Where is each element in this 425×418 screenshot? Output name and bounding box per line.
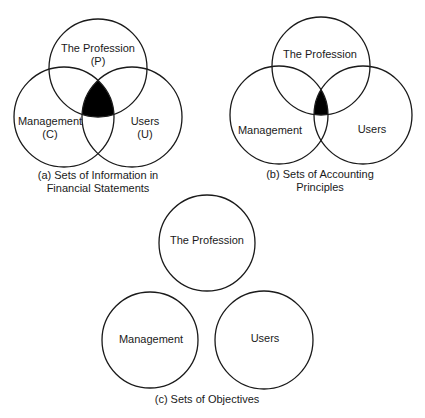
caption-a-line2: Financial Statements bbox=[47, 182, 150, 194]
label-users-b: Users bbox=[358, 123, 387, 135]
diagram-c-objectives: The Profession Management Users (c) Sets… bbox=[102, 195, 313, 405]
label-profession-b: The Profession bbox=[283, 48, 357, 60]
label-management-c: Management bbox=[119, 333, 183, 345]
caption-a-line1: (a) Sets of Information in bbox=[38, 169, 158, 181]
label-profession-sub-a: (P) bbox=[91, 55, 106, 67]
caption-b-line2: Principles bbox=[296, 181, 344, 193]
label-management-sub-a: (C) bbox=[42, 128, 57, 140]
caption-c: (c) Sets of Objectives bbox=[155, 393, 260, 405]
label-users-a: Users bbox=[131, 115, 160, 127]
venn-figure: The Profession (P) Management (C) Users … bbox=[0, 0, 425, 418]
label-users-sub-a: (U) bbox=[137, 128, 152, 140]
label-management-a: Management bbox=[18, 115, 82, 127]
label-profession-c: The Profession bbox=[170, 234, 244, 246]
caption-b-line1: (b) Sets of Accounting bbox=[266, 168, 374, 180]
label-management-b: Management bbox=[238, 124, 302, 136]
label-users-c: Users bbox=[251, 332, 280, 344]
diagram-b-principles: The Profession Management Users (b) Sets… bbox=[230, 17, 412, 193]
diagram-a-information: The Profession (P) Management (C) Users … bbox=[14, 19, 182, 194]
label-profession-a: The Profession bbox=[61, 42, 135, 54]
